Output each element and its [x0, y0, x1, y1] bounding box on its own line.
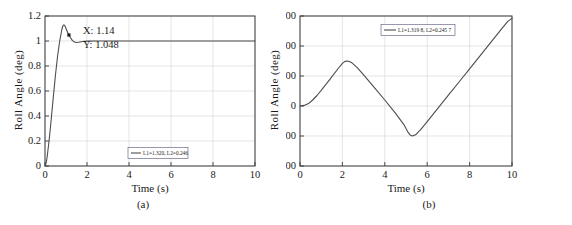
- chart-a-xtick-4: 8: [210, 169, 215, 180]
- chart-b-xtick-1: 2: [340, 169, 345, 180]
- chart-a-ytick-4: 0.8: [28, 60, 41, 71]
- chart-a-xtick-3: 6: [168, 169, 173, 180]
- chart-a-xlabel: Time (s): [105, 182, 195, 194]
- chart-b-frame: [300, 16, 512, 166]
- chart-b-ticks: [300, 16, 512, 166]
- chart-b-ylabel: Roll Angle (deg): [268, 40, 280, 140]
- chart-b-series-line: [300, 18, 512, 136]
- chart-a-ytick-3: 0.6: [28, 85, 41, 96]
- panel-a: 0 2 4 6 8 10 0 0.2 0.4 0.6 0.8 1 1.2 X: …: [0, 0, 286, 225]
- chart-b-ytick-3: 100: [286, 70, 296, 81]
- chart-a-ytick-5: 1: [36, 35, 41, 46]
- chart-a-caption: (a): [0, 198, 286, 210]
- chart-a-ylabel: Roll Angle (deg): [12, 40, 24, 140]
- chart-b-gridlines-horizontal: [300, 16, 512, 166]
- chart-a-xtick-2: 4: [126, 169, 132, 180]
- chart-b-legend-label: L1=1.319 8, L2=0.245 7: [398, 27, 451, 33]
- chart-a-ytick-6: 1.2: [28, 10, 41, 21]
- chart-b-xtick-2: 4: [382, 169, 388, 180]
- chart-a-ytick-2: 0.4: [28, 110, 42, 121]
- chart-a-xtick-1: 2: [84, 169, 89, 180]
- chart-a-gridlines-horizontal: [45, 16, 255, 166]
- chart-a-ytick-1: 0.2: [28, 135, 41, 146]
- chart-b-gridlines-vertical: [300, 16, 512, 166]
- data-tip-marker: [67, 33, 70, 36]
- figure-container: 0 2 4 6 8 10 0 0.2 0.4 0.6 0.8 1 1.2 X: …: [0, 0, 572, 225]
- chart-b-ytick-0: -200: [286, 160, 296, 171]
- chart-b-xlabel: Time (s): [361, 182, 451, 194]
- panel-b: 0 2 4 6 8 10 -200 -100 0 100 200 300 L1=…: [286, 0, 572, 225]
- chart-b-legend[interactable]: L1=1.319 8, L2=0.245 7: [381, 25, 455, 36]
- chart-b-ytick-1: -100: [286, 130, 296, 141]
- chart-b-xtick-5: 10: [507, 169, 518, 180]
- chart-a-ytick-0: 0: [36, 160, 41, 171]
- chart-b-caption: (b): [286, 198, 572, 210]
- chart-a-legend[interactable]: L1=1.320, L2=0.246: [128, 148, 188, 159]
- data-tip-y-label: Y: 1.048: [83, 39, 119, 50]
- chart-a-datatip: X: 1.14 Y: 1.048: [67, 25, 118, 50]
- chart-a-xtick-5: 10: [250, 169, 261, 180]
- chart-b-ytick-2: 0: [291, 100, 296, 111]
- chart-b-xtick-3: 6: [425, 169, 430, 180]
- chart-b-xtick-4: 8: [467, 169, 472, 180]
- chart-b-ytick-4: 200: [286, 40, 296, 51]
- chart-b-ytick-5: 300: [286, 10, 296, 21]
- chart-a-legend-label: L1=1.320, L2=0.246: [143, 150, 188, 156]
- chart-a-series-line: [45, 25, 255, 166]
- chart-a-xtick-0: 0: [42, 169, 47, 180]
- chart-b-xtick-0: 0: [297, 169, 302, 180]
- data-tip-x-label: X: 1.14: [83, 25, 115, 36]
